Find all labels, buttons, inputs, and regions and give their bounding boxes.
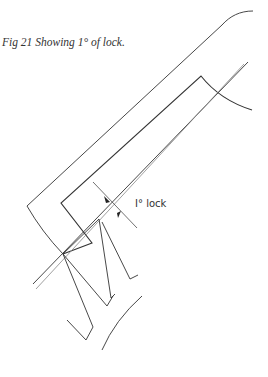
- escape-tooth-3: [102, 222, 138, 279]
- escape-tooth-1: [63, 219, 115, 340]
- pallet-face-line-2: [36, 64, 244, 289]
- pallet-inner-outline: [61, 76, 252, 254]
- pallet-outer-outline: [27, 11, 253, 254]
- lock-diagram: [0, 0, 268, 377]
- lock-arrow-bottom-icon: [117, 211, 121, 218]
- pallet-face-line-1: [33, 62, 248, 284]
- lock-angle-label: I° lock: [135, 198, 166, 209]
